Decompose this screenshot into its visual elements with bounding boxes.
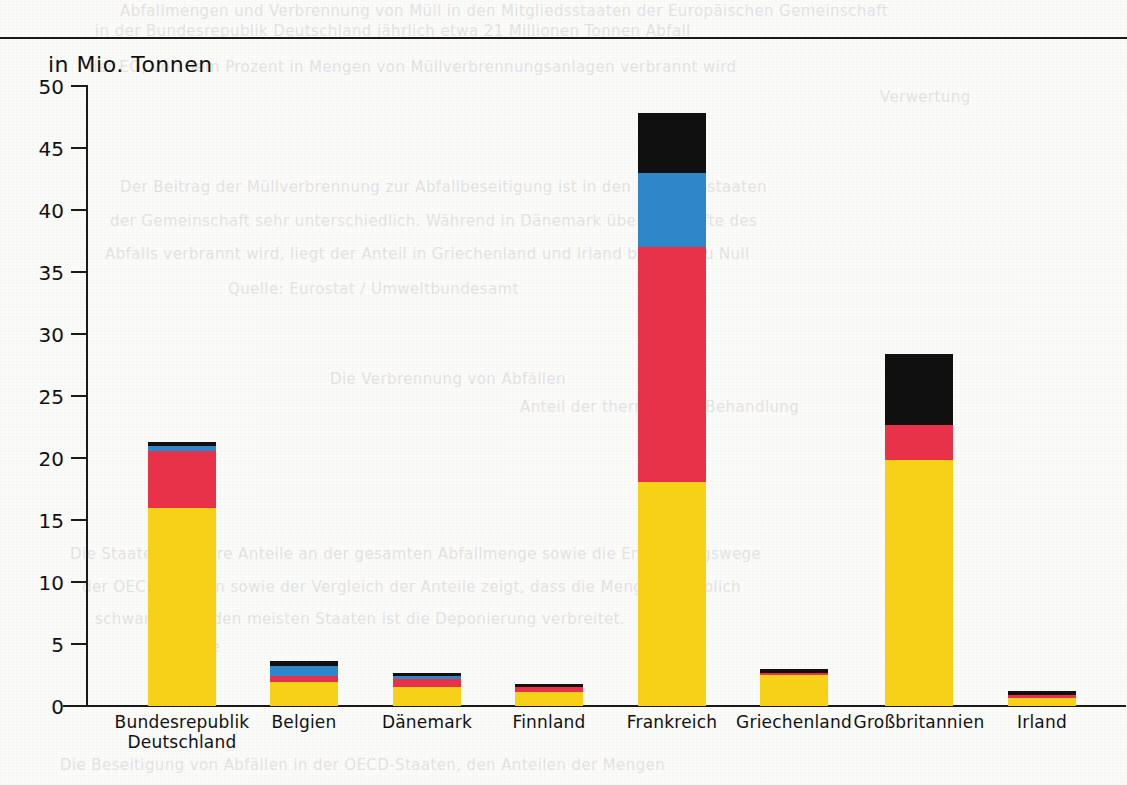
- bar-group: [0, 0, 1127, 785]
- bar-segment-yellow: [885, 460, 953, 706]
- bar-segment-yellow: [760, 675, 828, 706]
- bar-1[interactable]: [148, 442, 216, 706]
- bar-segment-blue: [638, 173, 706, 247]
- bar-5[interactable]: [638, 113, 706, 706]
- bar-2[interactable]: [270, 661, 338, 706]
- bar-segment-red: [638, 247, 706, 481]
- bar-segment-yellow: [393, 687, 461, 706]
- bar-segment-black: [638, 113, 706, 173]
- bar-segment-red: [148, 451, 216, 508]
- bar-3[interactable]: [393, 673, 461, 706]
- bar-8[interactable]: [1008, 691, 1076, 706]
- bar-segment-blue: [270, 666, 338, 676]
- bar-segment-yellow: [515, 692, 583, 706]
- bar-segment-red: [885, 425, 953, 461]
- bar-segment-red: [393, 679, 461, 687]
- stacked-bar-chart: in Mio. Tonnen 50454035302520151050 Bund…: [0, 0, 1127, 785]
- bar-7[interactable]: [885, 354, 953, 706]
- x-axis-label-8: Irland: [937, 712, 1127, 732]
- bar-segment-yellow: [1008, 698, 1076, 706]
- bar-segment-yellow: [638, 482, 706, 706]
- bar-4[interactable]: [515, 684, 583, 706]
- x-axis-label-line: Deutschland: [77, 732, 287, 752]
- bar-segment-yellow: [270, 682, 338, 706]
- x-axis-label-line: Irland: [937, 712, 1127, 732]
- bar-6[interactable]: [760, 669, 828, 706]
- bar-segment-black: [885, 354, 953, 425]
- bar-segment-yellow: [148, 508, 216, 706]
